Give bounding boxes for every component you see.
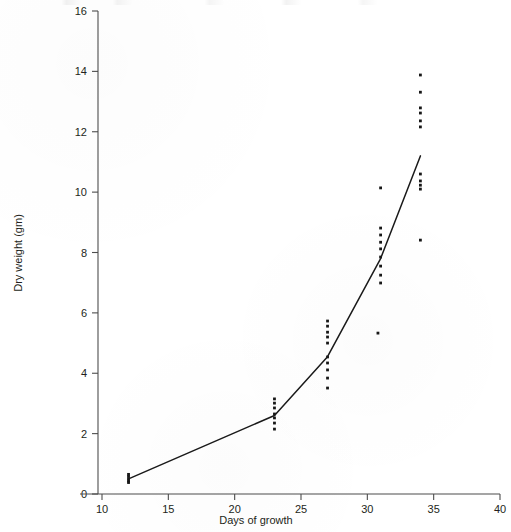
x-tick-label: 35 [428,503,440,515]
data-point [419,126,422,129]
x-tick-label: 15 [162,503,174,515]
x-axis-title: Days of growth [219,514,292,526]
data-point [273,422,276,425]
y-tick-label: 12 [75,126,87,138]
data-point [326,325,329,328]
data-point [273,417,276,420]
y-tick-label: 14 [75,65,87,77]
data-point [377,332,380,335]
x-tick-label: 10 [96,503,108,515]
x-axis: 10152025303540 [80,494,506,515]
data-point [273,428,276,431]
data-point [419,173,422,176]
data-point [419,180,422,183]
y-tick-label: 2 [81,428,87,440]
y-axis: 0246810121416 [75,5,98,500]
data-point [326,362,329,365]
data-point [326,320,329,323]
data-point [379,282,382,285]
data-point [379,274,382,277]
data-point [326,336,329,339]
x-tick-label: 40 [494,503,506,515]
y-tick-label: 6 [81,307,87,319]
data-point [419,184,422,187]
data-point [273,407,276,410]
x-tick-label: 25 [295,503,307,515]
data-point [419,188,422,191]
data-point [379,241,382,244]
data-point [419,91,422,94]
data-point [419,107,422,110]
data-point [326,342,329,345]
data-point [326,387,329,390]
data-point [419,74,422,77]
data-point [273,402,276,405]
data-point [326,369,329,372]
data-point [379,186,382,189]
data-points-layer [127,74,422,484]
y-axis-title: Dry weight (gm) [12,214,24,292]
y-tick-label: 16 [75,5,87,17]
data-point [379,234,382,237]
chart-canvas: 0246810121416 10152025303540 Days of gro… [0,0,511,532]
data-point [127,481,130,484]
scatter-plot-figure: 0246810121416 10152025303540 Days of gro… [0,0,511,532]
data-point [379,247,382,250]
data-point [419,119,422,122]
data-point [326,377,329,380]
y-tick-label: 4 [81,367,87,379]
y-tick-label: 10 [75,186,87,198]
y-tick-label: 8 [81,247,87,259]
data-point [419,239,422,242]
data-point [127,475,130,478]
data-point [379,227,382,230]
data-point [326,331,329,334]
data-point [379,265,382,268]
data-point [419,112,422,115]
data-point [273,398,276,401]
x-tick-label: 30 [361,503,373,515]
